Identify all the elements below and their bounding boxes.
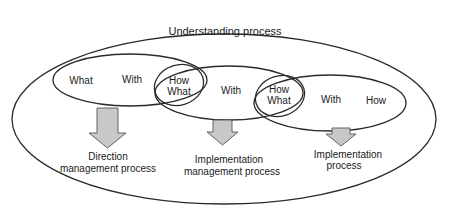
overlap1-label-how: How bbox=[169, 75, 190, 86]
down-arrow-icon-direction bbox=[89, 108, 126, 148]
down-arrow-icon-implementation-management bbox=[207, 120, 238, 145]
output1-line2: management process bbox=[60, 163, 156, 174]
overlap1-label-what: What bbox=[167, 86, 191, 97]
output3-line2: process bbox=[326, 160, 361, 171]
middle-label-with: With bbox=[221, 85, 241, 96]
output1-line1: Direction bbox=[88, 151, 127, 162]
process-diagram: Understanding process What With How What… bbox=[0, 0, 453, 211]
right-label-how: How bbox=[366, 95, 387, 106]
output2-line1: Implementation bbox=[195, 154, 263, 165]
left-label-with: With bbox=[122, 74, 142, 85]
overlap2-label-what: What bbox=[267, 95, 291, 106]
diagram-svg: Understanding process What With How What… bbox=[0, 0, 453, 211]
output3-line1: Implementation bbox=[314, 149, 382, 160]
outer-ellipse-understanding bbox=[12, 34, 436, 204]
right-label-with: With bbox=[321, 94, 341, 105]
overlap2-label-how: How bbox=[269, 84, 290, 95]
output2-line2: management process bbox=[184, 166, 280, 177]
left-label-what: What bbox=[69, 75, 93, 86]
outer-label: Understanding process bbox=[168, 25, 282, 37]
